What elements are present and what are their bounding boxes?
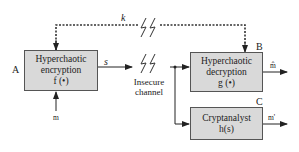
lightning-icon-channel bbox=[141, 54, 155, 73]
block-b-line1: Hyperchaotic bbox=[201, 56, 252, 67]
input-label: m bbox=[53, 113, 59, 123]
block-b-line3: g (•) bbox=[218, 78, 235, 89]
block-a-line1: Hyperchaotic bbox=[35, 54, 86, 65]
output-c-label: m' bbox=[268, 113, 275, 123]
block-c-line1: Cryptanalyst bbox=[202, 113, 251, 124]
ciphertext-label: s bbox=[104, 57, 108, 67]
channel-label: Insecure channel bbox=[124, 77, 174, 97]
key-line bbox=[56, 25, 245, 52]
channel-line2: channel bbox=[124, 87, 174, 97]
output-b-label: m̂ bbox=[270, 61, 276, 71]
block-c-label: C bbox=[256, 97, 263, 107]
decryption-block: Hyperchaotic decryption g (•) bbox=[190, 52, 263, 92]
block-b-label: B bbox=[256, 42, 263, 52]
block-a-label: A bbox=[12, 65, 19, 75]
encryption-block: Hyperchaotic encryption f (•) bbox=[24, 50, 98, 91]
block-a-line2: encryption bbox=[41, 65, 82, 76]
to-cryptanalyst-arrow bbox=[175, 67, 189, 124]
block-a-line3: f (•) bbox=[53, 76, 68, 87]
block-b-line2: decryption bbox=[206, 67, 247, 78]
channel-line1: Insecure bbox=[124, 77, 174, 87]
lightning-icon-key bbox=[141, 18, 155, 37]
block-c-line2: h(s) bbox=[219, 124, 234, 135]
cryptanalyst-block: Cryptanalyst h(s) bbox=[190, 107, 263, 140]
key-label: k bbox=[121, 13, 125, 23]
